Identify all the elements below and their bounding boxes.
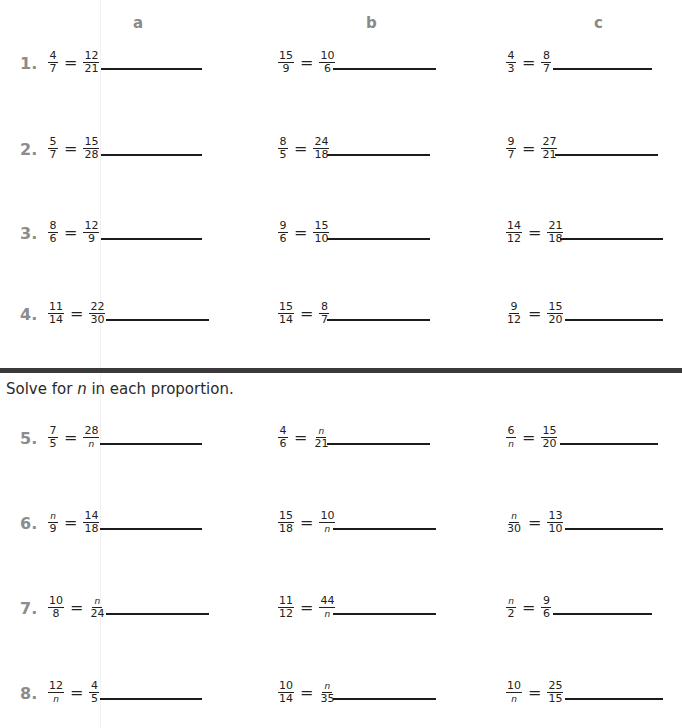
answer-blank[interactable]	[327, 319, 430, 321]
instruction-text: Solve for n in each proportion.	[6, 380, 234, 398]
fraction: 1520	[547, 301, 563, 326]
denominator: 30	[506, 523, 522, 535]
answer-blank[interactable]	[560, 443, 658, 445]
fraction: 57	[48, 136, 58, 161]
fraction: 2230	[89, 301, 105, 326]
answer-blank[interactable]	[333, 528, 436, 530]
numerator: 44	[319, 595, 335, 608]
answer-blank[interactable]	[106, 613, 209, 615]
equals-sign: =	[300, 304, 313, 323]
fraction: 96	[278, 220, 288, 245]
answer-blank[interactable]	[565, 698, 663, 700]
proportion-c: n2=96	[506, 587, 551, 627]
denominator: 28	[83, 149, 99, 161]
proportion-a: 57=1528	[48, 128, 99, 168]
proportion-a: 1114=2230	[48, 293, 105, 333]
numerator: 4	[506, 50, 516, 63]
equals-sign: =	[522, 53, 535, 72]
fraction: n2	[506, 595, 516, 620]
numerator: 10	[506, 680, 522, 693]
denominator: 12	[506, 233, 522, 245]
equals-sign: =	[528, 513, 541, 532]
answer-blank[interactable]	[553, 613, 652, 615]
fraction: 1114	[48, 301, 64, 326]
problem-row: 4.1114=22301514=87912=1520	[0, 293, 682, 333]
equals-sign: =	[528, 683, 541, 702]
numerator: 11	[278, 595, 294, 608]
proportion-b: 1514=87	[278, 293, 329, 333]
equals-sign: =	[294, 223, 307, 242]
answer-blank[interactable]	[101, 68, 202, 70]
numerator: 4	[89, 680, 99, 693]
fraction: 87	[319, 301, 329, 326]
problem-row: 6.n9=14181518=10nn30=1310	[0, 502, 682, 542]
answer-blank[interactable]	[100, 698, 202, 700]
numerator: 9	[506, 136, 516, 149]
numerator: 13	[547, 510, 563, 523]
numerator: 12	[48, 680, 64, 693]
answer-blank[interactable]	[100, 528, 202, 530]
numerator: 5	[48, 136, 58, 149]
answer-blank[interactable]	[101, 238, 202, 240]
answer-blank[interactable]	[560, 238, 663, 240]
equals-sign: =	[528, 223, 541, 242]
fraction: 1514	[278, 301, 294, 326]
answer-blank[interactable]	[106, 319, 209, 321]
numerator: 9	[541, 595, 551, 608]
answer-blank[interactable]	[333, 613, 436, 615]
answer-blank[interactable]	[555, 154, 658, 156]
numerator: n	[506, 595, 516, 608]
fraction: 1518	[278, 510, 294, 535]
fraction: 912	[506, 301, 522, 326]
equals-sign: =	[64, 53, 77, 72]
answer-blank[interactable]	[565, 319, 663, 321]
answer-blank[interactable]	[327, 238, 430, 240]
answer-blank[interactable]	[553, 68, 652, 70]
equals-sign: =	[522, 139, 535, 158]
denominator: 7	[506, 149, 516, 161]
proportion-a: n9=1418	[48, 502, 99, 542]
denominator: n	[86, 438, 96, 450]
fraction: 10n	[319, 510, 335, 535]
numerator: 15	[278, 510, 294, 523]
answer-blank[interactable]	[333, 698, 436, 700]
numerator: 10	[319, 510, 335, 523]
proportion-b: 1112=44n	[278, 587, 335, 627]
instruction-before: Solve for	[6, 380, 77, 398]
fraction: 75	[48, 425, 58, 450]
denominator: 15	[547, 693, 563, 705]
answer-blank[interactable]	[327, 154, 430, 156]
fraction: 2721	[541, 136, 557, 161]
fraction: 96	[541, 595, 551, 620]
numerator: 8	[541, 50, 551, 63]
answer-blank[interactable]	[101, 154, 202, 156]
denominator: 20	[541, 438, 557, 450]
problem-number: 5.	[20, 429, 37, 448]
answer-blank[interactable]	[333, 68, 436, 70]
numerator: 24	[313, 136, 329, 149]
proportion-a: 86=129	[48, 212, 99, 252]
problem-row: 2.57=152885=241897=2721	[0, 128, 682, 168]
equals-sign: =	[70, 683, 83, 702]
answer-blank[interactable]	[565, 528, 663, 530]
numerator: 15	[313, 220, 329, 233]
problem-row: 1.47=1221159=10643=87	[0, 42, 682, 82]
equals-sign: =	[300, 683, 313, 702]
answer-blank[interactable]	[327, 443, 430, 445]
numerator: 25	[547, 680, 563, 693]
equals-sign: =	[64, 139, 77, 158]
fraction: 1310	[547, 510, 563, 535]
denominator: 2	[506, 608, 516, 620]
fraction: 43	[506, 50, 516, 75]
equals-sign: =	[294, 139, 307, 158]
denominator: n	[509, 693, 519, 705]
fraction: n9	[48, 510, 58, 535]
proportion-c: 1412=2118	[506, 212, 563, 252]
fraction: 159	[278, 50, 294, 75]
fraction: 129	[83, 220, 99, 245]
fraction: 1112	[278, 595, 294, 620]
equals-sign: =	[300, 53, 313, 72]
equals-sign: =	[522, 598, 535, 617]
answer-blank[interactable]	[100, 443, 202, 445]
fraction: 2515	[547, 680, 563, 705]
